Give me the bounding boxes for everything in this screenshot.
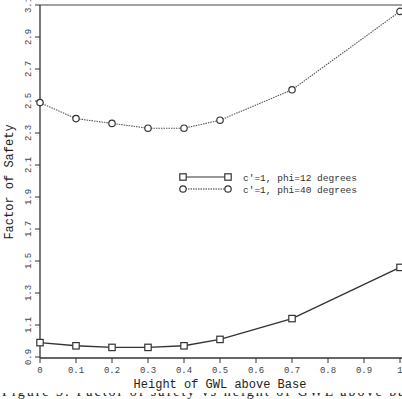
figure-caption-partial: Figure 3: Factor of safety vs height of … bbox=[0, 393, 402, 399]
y-tick-label: 1.7 bbox=[24, 221, 34, 237]
legend-circle-icon bbox=[180, 186, 186, 192]
x-tick-label: 0.7 bbox=[284, 366, 300, 376]
x-tick-label: 0.9 bbox=[356, 366, 372, 376]
x-tick-label: 0.6 bbox=[248, 366, 264, 376]
x-tick-label: 0.4 bbox=[176, 366, 192, 376]
x-axis-title: Height of GWL above Base bbox=[134, 378, 307, 392]
y-tick-label: 1.3 bbox=[24, 285, 34, 301]
square-marker-icon bbox=[109, 344, 115, 350]
y-tick-label: 1.9 bbox=[24, 189, 34, 205]
x-tick-label: 0.2 bbox=[104, 366, 120, 376]
square-marker-icon bbox=[181, 343, 187, 349]
y-tick-label: 1.1 bbox=[24, 317, 34, 333]
circle-marker-icon bbox=[145, 125, 151, 131]
x-tick-label: 0.1 bbox=[68, 366, 84, 376]
circle-marker-icon bbox=[397, 8, 402, 14]
x-tick-label: 0.5 bbox=[212, 366, 228, 376]
circle-marker-icon bbox=[217, 117, 223, 123]
circle-marker-icon bbox=[289, 87, 295, 93]
square-marker-icon bbox=[37, 339, 43, 345]
circle-marker-icon bbox=[181, 125, 187, 131]
series-line-0 bbox=[40, 267, 400, 347]
square-marker-icon bbox=[397, 264, 402, 270]
y-tick-label: 2.5 bbox=[24, 93, 34, 109]
y-tick-label: 2.9 bbox=[24, 29, 34, 45]
legend: c'=1, phi=12 degreesc'=1, phi=40 degrees bbox=[180, 173, 357, 196]
y-tick-label: 1.5 bbox=[24, 253, 34, 269]
y-tick-label: 2.3 bbox=[24, 125, 34, 141]
circle-marker-icon bbox=[73, 115, 79, 121]
square-marker-icon bbox=[145, 344, 151, 350]
circle-marker-icon bbox=[37, 99, 43, 105]
y-tick-label: 2.7 bbox=[24, 61, 34, 77]
x-tick-label: 0.8 bbox=[320, 366, 336, 376]
x-tick-label: 1 bbox=[397, 366, 402, 376]
series-line-1 bbox=[40, 11, 400, 128]
x-tick-label: 0 bbox=[37, 366, 42, 376]
square-marker-icon bbox=[289, 315, 295, 321]
line-chart: 0.91.11.31.51.71.92.12.32.52.72.93.100.1… bbox=[0, 0, 402, 393]
legend-label-1: c'=1, phi=40 degrees bbox=[243, 185, 357, 196]
circle-marker-icon bbox=[109, 120, 115, 126]
y-tick-label: 2.1 bbox=[24, 157, 34, 173]
y-axis-title: Factor of Safety bbox=[3, 124, 17, 239]
y-tick-label: 3.1 bbox=[24, 0, 34, 13]
x-tick-label: 0.3 bbox=[140, 366, 156, 376]
legend-square-icon bbox=[225, 174, 231, 180]
legend-square-icon bbox=[180, 174, 186, 180]
legend-label-0: c'=1, phi=12 degrees bbox=[243, 173, 357, 184]
y-tick-label: 0.9 bbox=[24, 349, 34, 365]
square-marker-icon bbox=[73, 343, 79, 349]
legend-circle-icon bbox=[225, 186, 231, 192]
square-marker-icon bbox=[217, 336, 223, 342]
